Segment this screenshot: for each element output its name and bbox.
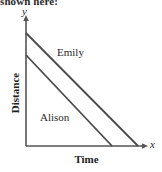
x-axis-letter: x — [150, 139, 155, 150]
y-axis-title: Distance — [9, 55, 21, 131]
emily-series-label: Emily — [57, 46, 84, 58]
distance-time-graph-figure: shown here: y x Emily Alison Time Distan… — [0, 0, 162, 172]
x-axis-title: Time — [25, 153, 148, 165]
x-axis-arrow-icon — [142, 143, 148, 149]
y-axis-letter: y — [22, 6, 27, 17]
plot-canvas — [0, 0, 162, 172]
alison-series-label: Alison — [40, 111, 69, 123]
alison-line — [26, 55, 112, 146]
